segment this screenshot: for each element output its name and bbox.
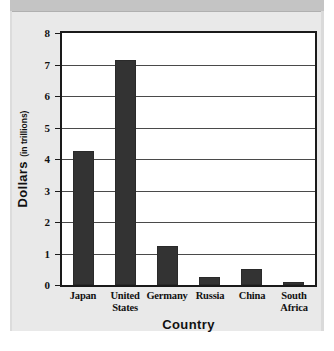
x-axis-tick-label: Russia xyxy=(189,290,231,302)
gridline xyxy=(62,222,315,223)
plot-inner xyxy=(62,33,315,285)
gridline xyxy=(62,65,315,66)
x-axis-tick-label: Japan xyxy=(62,290,104,302)
x-axis-tick-label: Germany xyxy=(146,290,188,302)
x-axis-tick-label: China xyxy=(231,290,273,302)
gridline xyxy=(62,128,315,129)
gridline xyxy=(62,254,315,255)
x-axis-tick-label: United States xyxy=(104,290,146,314)
y-axis-tick-label: 3 xyxy=(28,186,50,197)
gridline xyxy=(62,159,315,160)
plot-area xyxy=(60,31,317,287)
y-axis-tick-label: 1 xyxy=(28,249,50,260)
y-axis-tick-label: 0 xyxy=(28,280,50,291)
bar[interactable] xyxy=(157,246,178,285)
gridline xyxy=(62,191,315,192)
y-axis-title-main: Dollars xyxy=(15,161,30,207)
x-axis-tick-label: South Africa xyxy=(273,290,315,314)
x-axis-title: Country xyxy=(60,317,317,332)
y-axis-tick-label: 6 xyxy=(28,91,50,102)
bar[interactable] xyxy=(199,277,220,285)
bar[interactable] xyxy=(241,269,262,285)
y-axis-tick-label: 4 xyxy=(28,154,50,165)
y-axis-tick-label: 5 xyxy=(28,123,50,134)
y-axis-tick-label: 2 xyxy=(28,217,50,228)
bar[interactable] xyxy=(73,151,94,285)
bar[interactable] xyxy=(115,60,136,285)
gridline xyxy=(62,96,315,97)
y-axis-tick-label: 7 xyxy=(28,60,50,71)
bar-chart: Dollars (in trillions) 012345678 JapanUn… xyxy=(0,0,334,351)
bar[interactable] xyxy=(283,282,304,285)
y-axis-tick-label: 8 xyxy=(28,28,50,39)
